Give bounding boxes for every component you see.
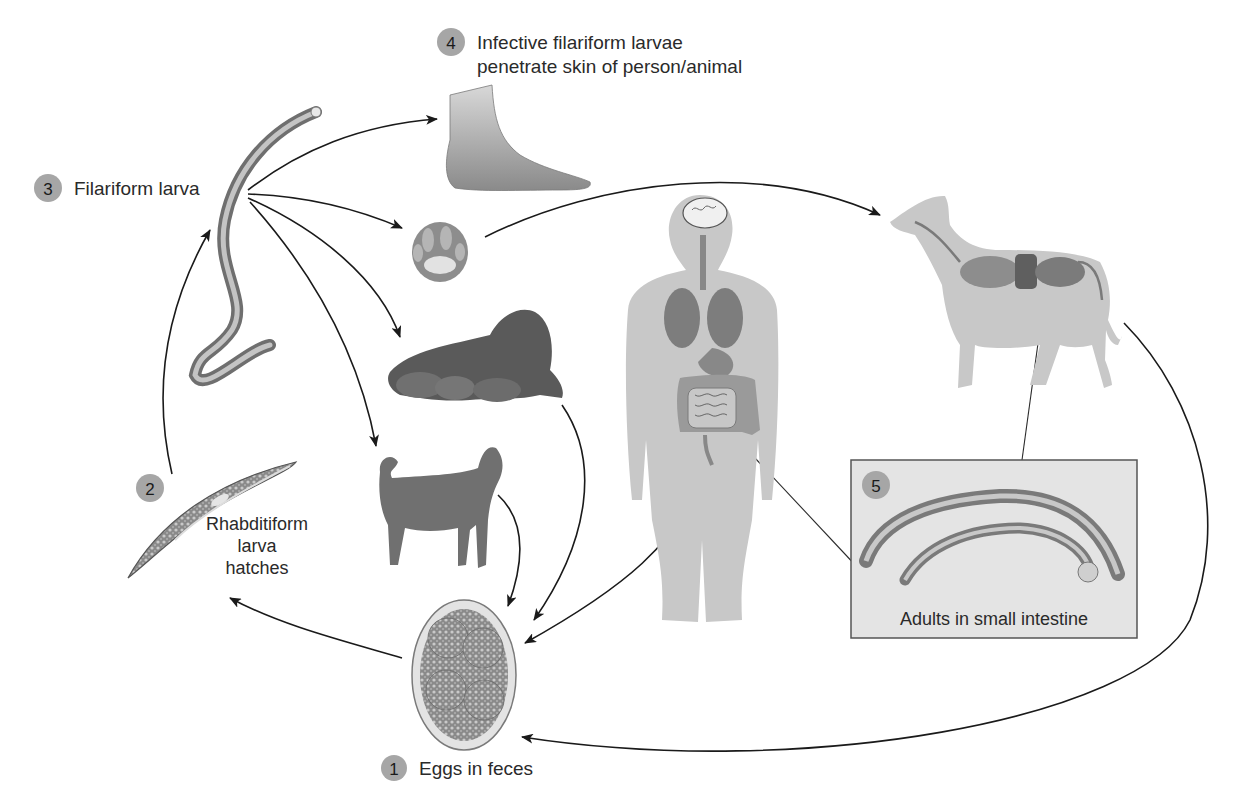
- stage-number: 5: [871, 477, 880, 496]
- dog-anatomy-icon: [890, 196, 1122, 388]
- adults-inset-panel: Adults in small intestine: [851, 460, 1137, 638]
- stage-2-label-line-1: Rhabditiform: [206, 514, 308, 534]
- stage-2-label-line-3: hatches: [225, 558, 288, 578]
- paw-icon: [412, 222, 468, 282]
- arrow-filariform-to-dog: [250, 202, 376, 446]
- stage-number: 2: [145, 480, 154, 499]
- arrow-eggs-to-rhabditiform: [230, 598, 402, 658]
- stage-3-marker: 3 Filariform larva: [34, 174, 200, 202]
- egg-icon: [412, 600, 516, 750]
- foot-icon: [446, 85, 590, 191]
- stage-4-marker: 4 Infective filariform larvae penetrate …: [437, 28, 742, 77]
- stage-1-marker: 1 Eggs in feces: [381, 755, 533, 781]
- stage-4-label-line-2: penetrate skin of person/animal: [477, 56, 742, 77]
- filariform-larva-icon: [195, 107, 321, 380]
- stage-number: 1: [389, 760, 398, 779]
- stage-3-label: Filariform larva: [74, 178, 200, 199]
- stage-5-marker: 5: [862, 471, 890, 499]
- life-cycle-diagram: Adults in small intestine 1 Eggs in fece…: [0, 0, 1245, 798]
- stage-4-label-line-1: Infective filariform larvae: [477, 32, 683, 53]
- stage-number: 4: [446, 34, 455, 53]
- dog-icon: [379, 447, 502, 568]
- stage-2-label-line-2: larva: [237, 536, 277, 556]
- arrow-nursing-dog-to-eggs: [534, 405, 585, 620]
- arrow-filariform-to-paw: [248, 194, 402, 228]
- nursing-dog-icon: [388, 310, 563, 402]
- stage-1-label: Eggs in feces: [419, 758, 533, 779]
- stage-number: 3: [43, 180, 52, 199]
- stage-5-label: Adults in small intestine: [900, 609, 1088, 629]
- arrow-dog-to-eggs: [498, 495, 520, 606]
